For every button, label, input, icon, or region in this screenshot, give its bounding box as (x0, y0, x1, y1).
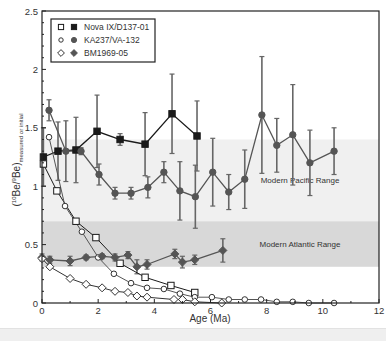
square-marker (142, 274, 148, 280)
circle-marker (259, 112, 265, 118)
circle-marker (128, 190, 134, 196)
diamond-marker (66, 274, 74, 282)
y-tick-label: 1.5 (25, 122, 38, 133)
x-tick-label: 4 (152, 305, 157, 316)
square-marker (58, 24, 63, 29)
circle-marker (112, 190, 118, 196)
circle-marker (177, 188, 183, 194)
diamond-marker (133, 292, 141, 300)
circle-marker (226, 297, 232, 303)
circle-marker (145, 184, 151, 190)
square-marker (94, 128, 100, 134)
circle-marker (161, 286, 167, 292)
y-tick-label: 0.5 (25, 239, 38, 250)
square-marker (71, 24, 76, 29)
circle-marker (242, 297, 248, 303)
circle-marker (71, 37, 76, 42)
diamond-marker (191, 298, 199, 306)
circle-marker (78, 148, 84, 154)
square-marker (73, 218, 79, 224)
diamond-marker (82, 280, 90, 288)
square-marker (40, 161, 46, 167)
circle-marker (307, 160, 313, 166)
x-tick-label: 0 (39, 305, 44, 316)
diamond-marker (170, 295, 178, 303)
circle-marker (161, 169, 167, 175)
square-marker (168, 282, 174, 288)
legend-label: BM1969-05 (84, 48, 128, 58)
square-marker (117, 260, 123, 266)
circle-marker (331, 148, 337, 154)
circle-marker (144, 285, 150, 291)
circle-marker (111, 271, 117, 277)
square-marker (40, 154, 46, 160)
y-tick-label: 2.5 (25, 6, 38, 17)
y-axis-label: (10Be/9Be)measured or initial (11, 114, 24, 207)
square-marker (54, 188, 60, 194)
x-tick-label: 8 (264, 305, 269, 316)
square-marker (142, 141, 148, 147)
x-axis-label: Age (Ma) (189, 313, 230, 324)
circle-marker (128, 280, 134, 286)
circle-marker (96, 171, 102, 177)
square-marker (93, 234, 99, 240)
square-marker (117, 136, 123, 142)
circle-marker (46, 107, 52, 113)
y-tick-label: 0 (33, 298, 38, 309)
range-band-label: Modern Atlantic Range (260, 240, 341, 249)
legend: Nova IX/D137-01KA237/VA-132BM1969-05 (51, 19, 155, 62)
legend-label: KA237/VA-132 (84, 35, 140, 45)
circle-marker (46, 134, 52, 140)
circle-marker (242, 176, 248, 182)
x-tick-label: 10 (318, 305, 329, 316)
range-band-label: Modern Pacific Range (261, 176, 340, 185)
circle-marker (274, 299, 280, 305)
x-tick-label: 2 (96, 305, 101, 316)
circle-marker (192, 194, 198, 200)
square-marker (55, 148, 61, 154)
circle-marker (209, 294, 215, 300)
circle-marker (63, 148, 69, 154)
circle-marker (290, 132, 296, 138)
diamond-marker (111, 287, 119, 295)
diamond-marker (98, 284, 106, 292)
circle-marker (79, 229, 85, 235)
diamond-marker (124, 288, 132, 296)
x-tick-label: 12 (374, 305, 385, 316)
square-marker (169, 111, 175, 117)
square-marker (194, 133, 200, 139)
circle-marker (226, 189, 232, 195)
bottom-strip (0, 328, 386, 341)
circle-marker (210, 169, 216, 175)
diamond-marker (143, 293, 151, 301)
circle-marker (59, 38, 63, 42)
y-tick-label: 1 (33, 181, 38, 192)
circle-marker (62, 203, 68, 209)
circle-marker (274, 142, 280, 148)
y-tick-label: 2 (33, 64, 38, 75)
legend-label: Nova IX/D137-01 (84, 22, 149, 32)
circle-marker (258, 297, 264, 303)
